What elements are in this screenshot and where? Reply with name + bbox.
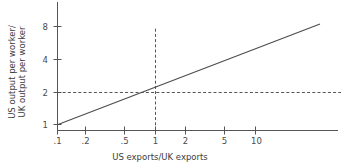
x-tick-label-0p5: .5 bbox=[120, 136, 128, 146]
chart-plot-area: 8 4 2 1 .1 .2 .5 1 2 5 10 US exports/UK … bbox=[0, 0, 352, 166]
y-tick-label-8: 8 bbox=[43, 22, 48, 32]
data-series-line bbox=[58, 24, 320, 125]
y-tick-label-1: 1 bbox=[43, 120, 48, 130]
y-axis-title-line2: UK output per worker bbox=[17, 26, 27, 118]
x-tick-label-1: 1 bbox=[153, 136, 158, 146]
x-tick-label-10: 10 bbox=[251, 136, 262, 146]
x-tick-label-2: 2 bbox=[183, 136, 188, 146]
x-tick-label-0p1: .1 bbox=[53, 136, 61, 146]
y-tick-label-2: 2 bbox=[43, 88, 48, 98]
y-axis-title-line1: US output per worker/ bbox=[7, 25, 17, 119]
y-tick-label-4: 4 bbox=[43, 55, 48, 65]
chart-figure: 8 4 2 1 .1 .2 .5 1 2 5 10 US exports/UK … bbox=[0, 0, 352, 166]
x-tick-label-0p2: .2 bbox=[81, 136, 89, 146]
x-tick-label-5: 5 bbox=[222, 136, 227, 146]
x-axis-title: US exports/UK exports bbox=[112, 152, 208, 162]
